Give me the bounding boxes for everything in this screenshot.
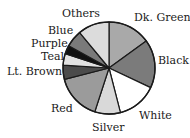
slice-label-blue: Blue bbox=[48, 25, 73, 36]
slice-label-dk-green: Dk. Green bbox=[134, 12, 190, 23]
slice-label-red: Red bbox=[51, 103, 73, 114]
slice-label-purple: Purple bbox=[31, 38, 68, 49]
slice-label-black: Black bbox=[158, 55, 189, 66]
slice-label-silver: Silver bbox=[92, 122, 125, 133]
slice-label-lt-brown: Lt. Brown bbox=[7, 66, 62, 77]
slice-label-white: White bbox=[139, 110, 172, 121]
slice-label-others: Others bbox=[62, 8, 100, 19]
slice-label-teal: Teal bbox=[41, 51, 64, 62]
